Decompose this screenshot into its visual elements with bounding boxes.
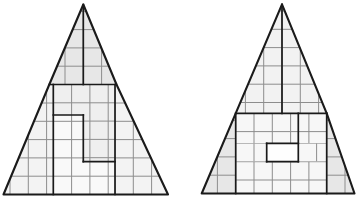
right-triangle (202, 4, 355, 193)
right-triangle-middle-left-block (236, 143, 267, 161)
right-triangle-middle-lower-band (236, 162, 327, 194)
right-triangle-middle-right-block (298, 143, 326, 161)
right-triangle-middle-upper-band (236, 113, 327, 143)
right-triangle-hole-rectangle (267, 143, 299, 161)
left-triangle (4, 5, 169, 195)
puzzle-svg (0, 0, 358, 201)
triangle-paradox-figure (0, 0, 358, 201)
